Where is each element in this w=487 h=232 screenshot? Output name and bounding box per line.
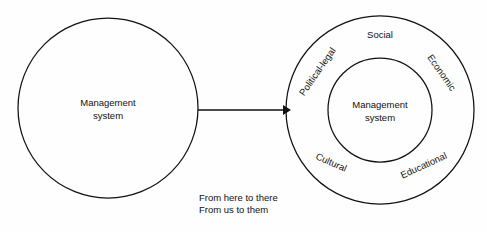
left-system-label-line2: system [93,110,123,121]
environment-outer-circle [286,16,474,204]
caption-line2: From us to them [199,204,268,215]
right-system-label-line2: system [365,112,395,123]
right-system-label-line1: Management [352,99,408,110]
management-system-environment-diagram: Management system Management system Soci… [0,0,487,232]
left-system-circle [18,18,198,198]
right-system-circle [328,58,432,162]
diagram-canvas: Management system Management system Soci… [0,0,487,232]
transition-arrow-group [198,105,291,115]
left-system-label-line1: Management [80,97,136,108]
env-label-economic: Economic [425,52,458,93]
env-label-cultural: Cultural [314,150,348,173]
caption-line1: From here to there [199,192,278,203]
env-label-social: Social [367,29,393,40]
right-node-group: Management system Social Political-legal… [286,16,474,204]
left-node-group: Management system [18,18,198,198]
caption-group: From here to there From us to them [199,192,278,215]
transition-arrow-head [283,105,291,115]
